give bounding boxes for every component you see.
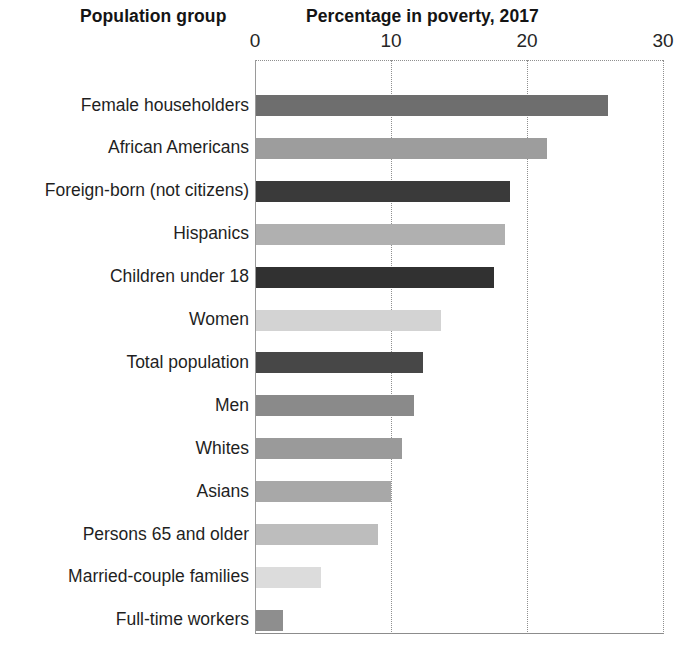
plot-area bbox=[255, 60, 663, 634]
category-label-hispanics: Hispanics bbox=[5, 223, 255, 244]
category-label-children-under-18: Children under 18 bbox=[5, 266, 255, 287]
x-axis-line bbox=[255, 633, 663, 634]
category-label-asians: Asians bbox=[5, 481, 255, 502]
x-tick-label-0: 0 bbox=[250, 30, 261, 52]
top-gridline bbox=[255, 60, 663, 61]
bar-children-under-18 bbox=[256, 267, 494, 288]
bar-total-population bbox=[256, 352, 423, 373]
category-label-total-population: Total population bbox=[5, 352, 255, 373]
x-tick-label-10: 10 bbox=[380, 30, 401, 52]
percentage-heading: Percentage in poverty, 2017 bbox=[306, 6, 539, 27]
category-label-married-couple-families: Married-couple families bbox=[5, 566, 255, 587]
category-label-female-householders: Female householders bbox=[5, 95, 255, 116]
poverty-bar-chart: Population group Percentage in poverty, … bbox=[0, 0, 676, 646]
category-label-full-time-workers: Full-time workers bbox=[5, 609, 255, 630]
gridline-30 bbox=[663, 60, 664, 634]
bar-hispanics bbox=[256, 224, 505, 245]
bar-women bbox=[256, 310, 441, 331]
bar-foreign-born-not-citizens bbox=[256, 181, 510, 202]
population-group-heading: Population group bbox=[80, 6, 226, 27]
bar-african-americans bbox=[256, 138, 547, 159]
category-label-men: Men bbox=[5, 395, 255, 416]
bar-married-couple-families bbox=[256, 567, 321, 588]
bar-persons-65-and-older bbox=[256, 524, 378, 545]
bar-men bbox=[256, 395, 414, 416]
bar-asians bbox=[256, 481, 391, 502]
bar-whites bbox=[256, 438, 402, 459]
category-label-african-americans: African Americans bbox=[5, 137, 255, 158]
category-label-women: Women bbox=[5, 309, 255, 330]
bar-full-time-workers bbox=[256, 610, 283, 631]
category-label-column: Female householdersAfrican AmericansFore… bbox=[0, 60, 255, 634]
bar-female-householders bbox=[256, 95, 608, 116]
x-tick-label-30: 30 bbox=[652, 30, 673, 52]
category-label-persons-65-and-older: Persons 65 and older bbox=[5, 524, 255, 545]
category-label-whites: Whites bbox=[5, 438, 255, 459]
x-tick-label-20: 20 bbox=[516, 30, 537, 52]
category-label-foreign-born-not-citizens: Foreign-born (not citizens) bbox=[5, 180, 255, 201]
